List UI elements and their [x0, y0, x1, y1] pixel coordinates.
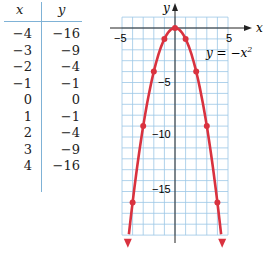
equation-label: y = −x2 — [205, 45, 252, 60]
data-point — [214, 199, 220, 205]
x-tick-neg5: −5 — [114, 32, 127, 44]
curve-arrow-icon — [124, 239, 132, 248]
curve-arrow-icon — [218, 239, 226, 248]
y-tick-neg10: −10 — [152, 128, 171, 140]
data-point — [172, 25, 178, 31]
y-tick-neg15: −15 — [152, 183, 171, 195]
data-point — [130, 199, 136, 205]
x-axis-arrow-icon — [244, 25, 252, 31]
x-axis-label: x — [256, 21, 263, 35]
data-point — [204, 123, 210, 129]
parabola-chart: x y −5 5 −5 −10 −15 y = −x2 — [0, 0, 266, 259]
data-point — [151, 69, 157, 75]
y-axis-arrow-icon — [172, 3, 178, 11]
data-point — [161, 36, 167, 42]
y-axis-label: y — [162, 1, 170, 15]
data-point — [183, 36, 189, 42]
data-point — [140, 123, 146, 129]
data-point — [193, 69, 199, 75]
x-tick-pos5: 5 — [226, 32, 232, 44]
y-tick-neg5: −5 — [158, 76, 171, 88]
